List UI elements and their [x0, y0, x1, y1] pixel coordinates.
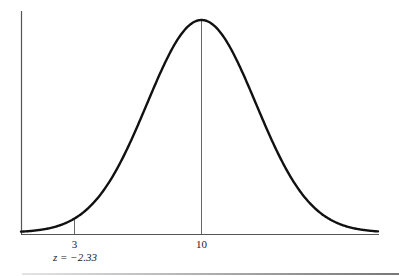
normal-distribution-chart: 3 10 z = −2.33	[0, 0, 399, 276]
tick-label-3: 3	[72, 238, 78, 250]
bottom-rule	[22, 273, 399, 275]
normal-curve	[21, 20, 378, 232]
z-score-annotation: z = −2.33	[52, 251, 97, 263]
tick-label-10: 10	[196, 238, 208, 250]
